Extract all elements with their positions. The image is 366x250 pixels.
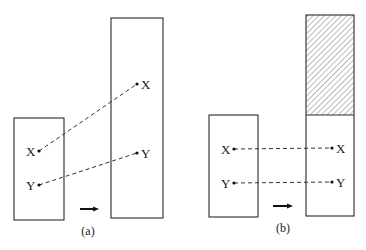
label-y-target: Y	[336, 175, 346, 190]
label-y-source: Y	[221, 176, 231, 191]
label-y-target: Y	[141, 146, 151, 161]
point-x-source	[37, 149, 40, 152]
point-y-target	[330, 180, 333, 183]
mapping-line-y	[39, 153, 137, 185]
panel-a: X Y X Y (a)	[14, 18, 163, 238]
label-x-source: X	[26, 144, 36, 159]
source-box	[209, 115, 258, 217]
target-box	[111, 18, 163, 218]
mapping-line-y	[234, 182, 332, 183]
label-x-target: X	[336, 141, 346, 156]
hatched-region	[306, 15, 354, 115]
label-x-target: X	[141, 77, 151, 92]
label-y-source: Y	[26, 178, 36, 193]
caption-a: (a)	[81, 224, 94, 238]
point-y-source	[232, 181, 235, 184]
arrowhead-icon	[287, 204, 293, 209]
point-x-source	[232, 147, 235, 150]
arrowhead-icon	[93, 207, 99, 212]
point-y-source	[37, 183, 40, 186]
figure: X Y X Y (a) X Y X Y (b)	[0, 0, 366, 250]
caption-b: (b)	[276, 221, 290, 235]
label-x-source: X	[221, 142, 231, 157]
point-x-target	[135, 82, 138, 85]
panel-b: X Y X Y (b)	[209, 15, 354, 235]
source-box	[14, 118, 64, 220]
point-x-target	[330, 146, 333, 149]
point-y-target	[135, 151, 138, 154]
mapping-line-x	[234, 148, 332, 149]
